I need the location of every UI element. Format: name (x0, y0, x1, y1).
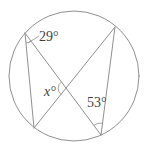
chord-topleft-bottomright (25, 33, 101, 135)
circle-chords-figure: 29° x° 53° (0, 0, 144, 148)
angle-label-29: 29° (39, 29, 59, 44)
chord-topleft-bottomleft (25, 33, 34, 128)
angle-arc-x (58, 82, 61, 95)
angle-arc-53 (94, 123, 103, 125)
geometry-diagram: 29° x° 53° (0, 0, 144, 148)
angle-label-53: 53° (87, 95, 107, 110)
circle-outline (9, 11, 139, 141)
angle-label-x: x° (43, 84, 56, 99)
chord-topright-bottomright (101, 27, 115, 135)
